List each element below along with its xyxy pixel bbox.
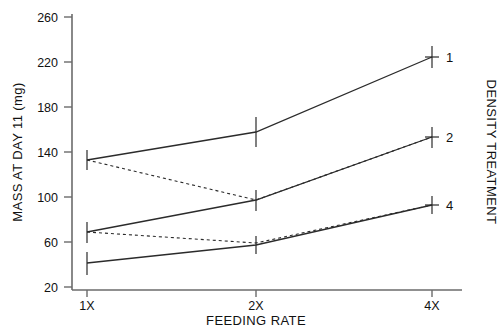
x-tick-labels: 1X 2X 4X (79, 299, 440, 313)
series-2-dashed (87, 137, 432, 200)
series-3-solid (87, 127, 439, 243)
figure-mass-vs-feeding-rate: 260 220 180 140 100 60 20 1X 2X 4X FEEDI… (0, 0, 502, 327)
x-tick-label-4x: 4X (424, 299, 440, 313)
series-5-solid (87, 196, 439, 275)
series-4-dashed (87, 205, 432, 243)
y-tick-label-100: 100 (37, 191, 58, 205)
y-tick-label-260: 260 (37, 11, 58, 25)
y-tick-label-20: 20 (44, 281, 58, 295)
end-labels-group: 1 2 4 (446, 50, 453, 213)
axis-group (64, 14, 462, 297)
series-1-solid (87, 46, 439, 170)
y-tick-label-60: 60 (44, 236, 58, 250)
x-tick-label-2x: 2X (248, 299, 264, 313)
series-4-dashed-line (87, 205, 432, 243)
series-2-dashed-line (87, 137, 432, 200)
x-axis-title: FEEDING RATE (206, 313, 306, 327)
y-tick-labels: 260 220 180 140 100 60 20 (37, 11, 58, 295)
y-tick-label-180: 180 (37, 101, 58, 115)
series-5-line (87, 205, 432, 263)
series-1-line (87, 57, 432, 160)
end-label-4: 4 (446, 198, 453, 213)
y-axis-title: MASS AT DAY 11 (mg) (10, 82, 25, 221)
x-tick-label-1x: 1X (79, 299, 95, 313)
end-label-1: 1 (446, 50, 453, 65)
right-axis-title: DENSITY TREATMENT (484, 80, 499, 225)
y-tick-label-140: 140 (37, 146, 58, 160)
end-label-2: 2 (446, 130, 453, 145)
y-tick-label-220: 220 (37, 56, 58, 70)
